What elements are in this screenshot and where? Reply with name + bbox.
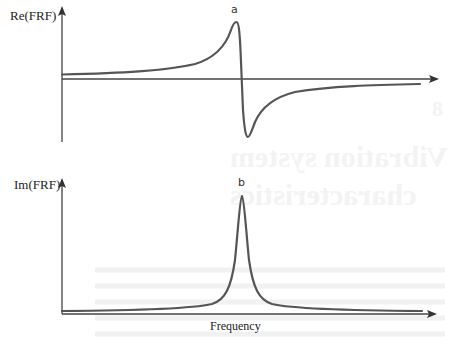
- bottom-y-axis-label: Im(FRF): [14, 177, 60, 193]
- frf-plots: [0, 0, 450, 350]
- bottom-panel-imaginary-part: [62, 180, 435, 314]
- bleed-through-body-lines: [95, 270, 445, 334]
- top-y-axis-label: Re(FRF): [10, 8, 56, 24]
- frf-figure: Vibration system characteristics 8: [0, 0, 450, 350]
- top-panel-real-part: [62, 8, 437, 142]
- imaginary-part-curve: [62, 196, 422, 311]
- bottom-peak-label: b: [238, 176, 245, 189]
- top-peak-label: a: [231, 3, 238, 16]
- x-axis-label-frequency: Frequency: [210, 319, 261, 334]
